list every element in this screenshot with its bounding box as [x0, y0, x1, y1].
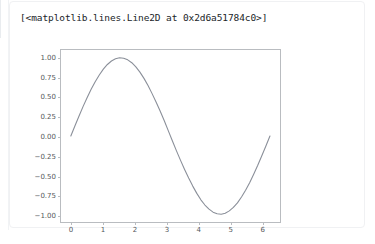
- y-tick-mark: [58, 216, 61, 217]
- sine-curve-svg: [61, 50, 280, 222]
- y-tick-mark: [58, 137, 61, 138]
- line-series-sin: [71, 58, 270, 214]
- y-tick-mark: [58, 117, 61, 118]
- x-tick-mark: [199, 222, 200, 225]
- x-tick-label: 5: [229, 226, 233, 234]
- x-tick-mark: [167, 222, 168, 225]
- y-tick-mark: [58, 196, 61, 197]
- y-tick-mark: [58, 177, 61, 178]
- y-tick-label: 0.00: [40, 133, 56, 141]
- x-tick-mark: [263, 222, 264, 225]
- matplotlib-figure: −1.00−0.75−0.50−0.250.000.250.500.751.00…: [10, 33, 366, 229]
- x-tick-label: 2: [133, 226, 137, 234]
- x-tick-mark: [135, 222, 136, 225]
- y-tick-label: −0.50: [35, 173, 56, 181]
- y-tick-label: −0.25: [35, 153, 56, 161]
- y-tick-label: −0.75: [35, 192, 56, 200]
- x-tick-label: 4: [197, 226, 201, 234]
- output-repr-text: [<matplotlib.lines.Line2D at 0x2d6a51784…: [20, 11, 267, 24]
- notebook-output-cell: [<matplotlib.lines.Line2D at 0x2d6a51784…: [9, 1, 365, 228]
- y-tick-mark: [58, 58, 61, 59]
- x-tick-label: 3: [165, 226, 169, 234]
- y-tick-label: 1.00: [40, 54, 56, 62]
- x-tick-label: 0: [69, 226, 73, 234]
- x-tick-label: 6: [261, 226, 265, 234]
- y-tick-mark: [58, 97, 61, 98]
- y-tick-label: 0.50: [40, 93, 56, 101]
- plot-axes: −1.00−0.75−0.50−0.250.000.250.500.751.00…: [60, 49, 281, 223]
- x-tick-label: 1: [101, 226, 105, 234]
- y-tick-label: −1.00: [35, 212, 56, 220]
- x-tick-mark: [231, 222, 232, 225]
- y-tick-label: 0.75: [40, 74, 56, 82]
- notebook-gutter-accent: [0, 0, 1, 38]
- x-tick-mark: [103, 222, 104, 225]
- y-tick-label: 0.25: [40, 113, 56, 121]
- x-tick-mark: [71, 222, 72, 225]
- y-tick-mark: [58, 78, 61, 79]
- y-tick-mark: [58, 157, 61, 158]
